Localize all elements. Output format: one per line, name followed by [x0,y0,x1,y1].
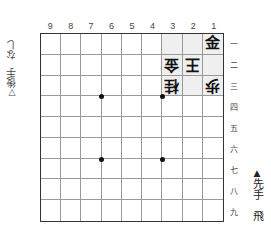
file-label: 9 [40,20,60,32]
rank-label: 七 [227,159,241,180]
square-6-7 [102,159,122,180]
shogi-board: 金金王桂歩 [40,33,224,222]
rank-label: 四 [227,96,241,117]
sente-hand: ▲ 先手 飛 [249,168,265,221]
gote-hand: ▽ 後手 なし [4,28,20,98]
square-5-6 [122,138,142,159]
square-9-3 [41,76,61,97]
sente-label: 先手 [251,178,264,200]
square-2-3 [183,76,203,97]
square-8-2 [61,55,81,76]
square-2-9 [183,200,203,221]
square-6-4 [102,96,122,117]
square-9-8 [41,179,61,200]
square-5-8 [122,179,142,200]
rank-label: 五 [227,117,241,138]
file-label: 8 [60,20,80,32]
square-2-2: 王 [183,55,203,76]
square-2-7 [183,159,203,180]
rank-label: 六 [227,138,241,159]
square-5-5 [122,117,142,138]
rank-label: 三 [227,75,241,96]
file-label: 4 [142,20,162,32]
square-3-5 [162,117,182,138]
rank-labels: 一二三四五六七八九 [227,33,241,222]
square-1-9 [203,200,223,221]
square-1-4 [203,96,223,117]
square-9-6 [41,138,61,159]
square-6-1 [102,34,122,55]
square-7-6 [81,138,101,159]
square-1-6 [203,138,223,159]
square-1-3: 歩 [203,76,223,97]
file-label: 2 [183,20,203,32]
square-4-5 [142,117,162,138]
square-8-3 [61,76,81,97]
square-4-8 [142,179,162,200]
square-4-3 [142,76,162,97]
square-6-5 [102,117,122,138]
sente-gold-piece: 金 [205,36,220,51]
rank-label: 九 [227,201,241,222]
square-9-7 [41,159,61,180]
sente-triangle-icon: ▲ [254,168,261,178]
square-1-7 [203,159,223,180]
square-4-2 [142,55,162,76]
square-8-7 [61,159,81,180]
square-9-5 [41,117,61,138]
gote-knight-piece: 桂 [164,78,179,93]
square-7-1 [81,34,101,55]
square-4-7 [142,159,162,180]
square-1-1: 金 [203,34,223,55]
gote-pawn-piece: 歩 [205,78,220,93]
square-2-6 [183,138,203,159]
gote-hand-pieces: なし [5,40,20,60]
square-3-3: 桂 [162,76,182,97]
square-9-9 [41,200,61,221]
gote-label: 後手 [6,68,18,88]
square-7-3 [81,76,101,97]
square-2-4 [183,96,203,117]
file-label: 3 [163,20,183,32]
rank-label: 二 [227,54,241,75]
square-5-2 [122,55,142,76]
square-3-7 [162,159,182,180]
square-5-3 [122,76,142,97]
square-3-4 [162,96,182,117]
square-1-8 [203,179,223,200]
square-3-2: 金 [162,55,182,76]
gote-gold-piece: 金 [164,57,179,72]
square-6-3 [102,76,122,97]
rank-label: 一 [227,33,241,54]
square-7-8 [81,179,101,200]
square-6-6 [102,138,122,159]
star-point [160,94,165,99]
square-4-4 [142,96,162,117]
square-2-1 [183,34,203,55]
file-label: 1 [204,20,224,32]
star-point [99,157,104,162]
star-point [99,94,104,99]
square-9-1 [41,34,61,55]
square-4-1 [142,34,162,55]
square-7-5 [81,117,101,138]
file-label: 7 [81,20,101,32]
square-3-1 [162,34,182,55]
file-label: 6 [101,20,121,32]
square-9-2 [41,55,61,76]
square-5-1 [122,34,142,55]
square-3-9 [162,200,182,221]
square-4-9 [142,200,162,221]
gote-king-piece: 王 [185,57,200,72]
square-1-5 [203,117,223,138]
square-2-5 [183,117,203,138]
square-3-6 [162,138,182,159]
file-label: 5 [122,20,142,32]
square-5-4 [122,96,142,117]
square-6-2 [102,55,122,76]
square-7-9 [81,200,101,221]
sente-hand-pieces: 飛 [249,210,265,221]
square-3-8 [162,179,182,200]
file-labels: 987654321 [40,20,224,32]
star-point [160,157,165,162]
